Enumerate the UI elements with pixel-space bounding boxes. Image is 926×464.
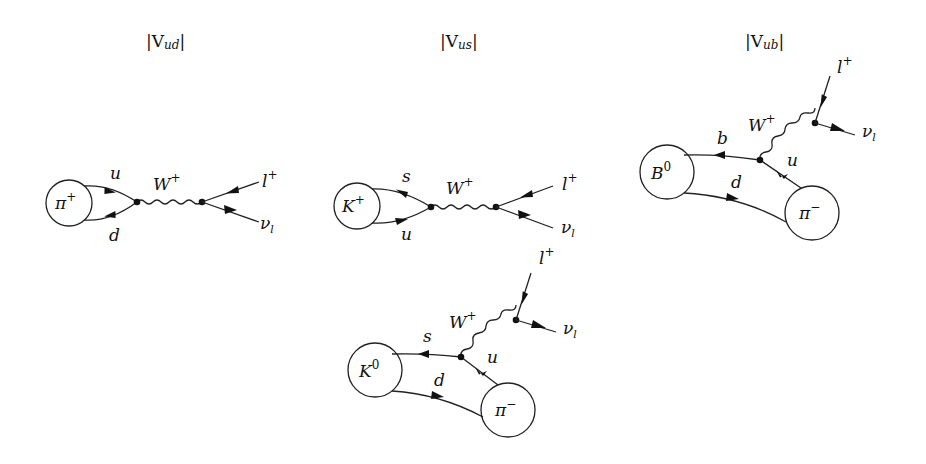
- arrow-icon: [520, 190, 533, 198]
- arrow-icon: [431, 391, 444, 399]
- arrow-icon: [418, 350, 429, 358]
- diagram-vus: |Vus| K+ s u W+ l+ νl: [334, 31, 578, 244]
- boson-label: W+: [446, 175, 474, 198]
- quark-label-u: u: [487, 347, 498, 367]
- vertex: [134, 199, 141, 206]
- vertex: [458, 354, 465, 361]
- feynman-diagrams-canvas: |Vud| π+ u d W+ l+ νl |Vus| K+: [0, 0, 926, 464]
- arrow-icon: [714, 151, 725, 159]
- arrow-icon: [104, 211, 117, 220]
- quark-label-s: s: [423, 326, 432, 346]
- arrow-icon: [396, 190, 408, 199]
- lepton-label: l+: [837, 54, 853, 77]
- neutrino-label: νl: [862, 121, 876, 144]
- neutrino-line: [496, 207, 553, 228]
- w-boson-propagator: [431, 205, 496, 209]
- neutrino-label: νl: [563, 318, 577, 341]
- arrow-icon: [519, 291, 529, 305]
- quark-label-u: u: [401, 224, 412, 244]
- arrow-icon: [818, 94, 828, 108]
- title-vud: |Vud|: [146, 31, 185, 52]
- neutrino-label: νl: [260, 213, 274, 236]
- quark-label-u: u: [787, 150, 798, 170]
- arrow-icon: [531, 320, 546, 328]
- quark-label-b: b: [717, 128, 728, 148]
- w-boson-propagator: [137, 200, 202, 204]
- vertex: [428, 204, 435, 211]
- diagram-vub: |Vub| B0 π− b d u W+ l+ νl: [640, 31, 876, 240]
- title-vub: |Vub|: [745, 31, 784, 52]
- quark-label-d: d: [731, 172, 742, 192]
- quark-label-s: s: [402, 166, 411, 186]
- boson-label: W+: [748, 112, 776, 135]
- quark-label-u: u: [110, 163, 121, 183]
- quark-label-d: d: [434, 370, 445, 390]
- lepton-label: l+: [262, 168, 278, 191]
- arrow-icon: [726, 193, 739, 201]
- diagram-vud: |Vud| π+ u d W+ l+ νl: [46, 31, 278, 245]
- arrow-icon: [226, 186, 239, 194]
- boson-label: W+: [153, 171, 181, 194]
- quark-label-d: d: [109, 225, 120, 245]
- diagram-k0-semileptonic: K0 π− s d u W+ l+ νl: [348, 245, 577, 437]
- neutrino-label: νl: [561, 217, 575, 240]
- vertex: [757, 157, 764, 164]
- lepton-label: l+: [539, 245, 555, 268]
- arrow-icon: [830, 123, 845, 131]
- boson-label: W+: [449, 309, 477, 332]
- lepton-label: l+: [562, 171, 578, 194]
- title-vus: |Vus|: [440, 31, 478, 52]
